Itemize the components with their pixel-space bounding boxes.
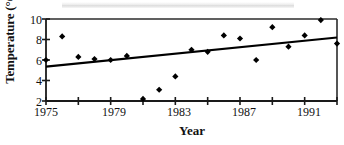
data-point-1993 [334, 41, 340, 47]
data-point-1979 [108, 57, 114, 63]
plot-area [0, 0, 344, 145]
data-point-1988 [253, 57, 259, 63]
data-point-1983 [172, 73, 178, 79]
data-point-1990 [285, 44, 291, 50]
data-point-1986 [221, 32, 227, 38]
data-point-1975 [43, 57, 49, 63]
data-point-1991 [302, 32, 308, 38]
temperature-vs-year-chart: Temperature (°C) Year 10 8 6 4 2 1975 19… [0, 0, 344, 145]
data-point-1976 [59, 33, 65, 39]
data-point-1992 [318, 17, 324, 23]
axis-frame [46, 19, 337, 101]
data-points [43, 17, 340, 102]
data-point-1987 [237, 35, 243, 41]
data-point-1977 [75, 54, 81, 60]
data-point-1982 [156, 87, 162, 93]
data-point-1989 [269, 24, 275, 30]
